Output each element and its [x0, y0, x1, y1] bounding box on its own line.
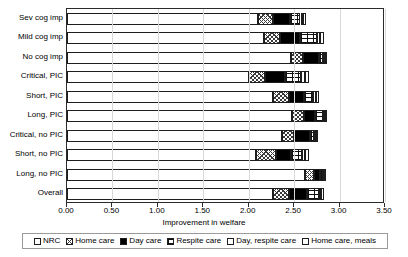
x-axis-tick-mark: [384, 203, 385, 207]
legend-swatch-respite-care: [167, 238, 174, 245]
plot-area: [66, 8, 384, 203]
legend-swatch-day-respite-care: [227, 238, 234, 245]
bar-row: [67, 169, 385, 181]
bar-segment-home-care-meals: [320, 32, 324, 44]
bar-segment-home-care: [258, 13, 273, 25]
bar-segment-nrc: [67, 130, 282, 142]
gridline: [294, 9, 295, 202]
bar-row: [67, 110, 385, 122]
legend-item-respite-care: Respite care: [167, 236, 221, 246]
bar-segment-respite-care: [315, 110, 323, 122]
x-axis-tick-mark: [339, 203, 340, 207]
bar-segment-home-care-meals: [316, 130, 318, 142]
gridline: [203, 9, 204, 202]
legend-item-nrc: NRC: [34, 236, 60, 246]
legend-swatch-nrc: [34, 238, 41, 245]
bar-segment-day-care: [276, 149, 291, 161]
legend-item-day-care: Day care: [120, 236, 161, 246]
bar-segment-day-care: [273, 13, 289, 25]
gridline: [340, 9, 341, 202]
bar-segment-home-care: [264, 32, 279, 44]
bar-row: [67, 130, 385, 142]
x-axis-tick-mark: [293, 203, 294, 207]
chart-figure: Sev cog impMild cog impNo cog impCritica…: [0, 0, 408, 257]
bar-segment-nrc: [67, 169, 305, 181]
bar-segment-day-care: [304, 110, 315, 122]
bar-row: [67, 32, 385, 44]
x-axis-tick-mark: [66, 203, 67, 207]
bar-segment-nrc: [67, 188, 273, 200]
bar-segment-day-care: [280, 32, 300, 44]
y-axis-label: No cog imp: [23, 51, 63, 63]
bar-segment-day-care: [303, 52, 318, 64]
y-axis-label: Critical, no PIC: [10, 129, 63, 141]
bar-segment-home-care-meals: [325, 52, 327, 64]
gridline: [158, 9, 159, 202]
y-axis-label: Critical, PIC: [21, 70, 63, 82]
bar-segment-home-care-meals: [316, 91, 319, 103]
bar-segment-nrc: [67, 149, 256, 161]
bar-row: [67, 188, 385, 200]
bar-segment-home-care-meals: [305, 71, 309, 83]
bar-segment-nrc: [67, 32, 264, 44]
y-axis-label: Long, no PIC: [16, 168, 63, 180]
legend-item-home-care-meals: Home care, meals: [302, 236, 376, 246]
bars-container: [67, 9, 383, 202]
bar-segment-day-care: [289, 91, 304, 103]
y-axis-label: Short, no PIC: [15, 148, 63, 160]
x-axis-tick-mark: [111, 203, 112, 207]
legend-swatch-day-care: [120, 238, 127, 245]
bar-segment-home-care-meals: [303, 13, 306, 25]
chart-legend: NRCHome careDay careRespite careDay, res…: [22, 233, 388, 249]
x-axis-tick-mark: [202, 203, 203, 207]
bar-segment-home-care: [305, 169, 314, 181]
legend-label: NRC: [43, 236, 60, 246]
y-axis-label: Long, PIC: [27, 109, 63, 121]
bar-segment-home-care: [273, 91, 288, 103]
y-axis-label: Sev cog imp: [19, 12, 63, 24]
legend-label: Day, respite care: [236, 236, 296, 246]
bar-segment-day-care: [265, 71, 285, 83]
legend-label: Home care: [75, 236, 114, 246]
legend-label: Respite care: [176, 236, 221, 246]
x-axis-tick-labels: 0.000.501.001.502.002.503.003.50: [0, 205, 408, 217]
bar-segment-nrc: [67, 91, 273, 103]
legend-swatch-home-care-meals: [302, 238, 309, 245]
bar-segment-home-care: [282, 130, 294, 142]
gridline: [112, 9, 113, 202]
bar-segment-day-care: [289, 188, 307, 200]
bar-segment-respite-care: [291, 149, 302, 161]
bar-segment-home-care-meals: [324, 169, 326, 181]
bar-segment-nrc: [67, 110, 292, 122]
bar-segment-respite-care: [307, 188, 319, 200]
legend-item-day-respite-care: Day, respite care: [227, 236, 296, 246]
bar-segment-home-care-meals: [321, 188, 324, 200]
bar-segment-respite-care: [304, 91, 313, 103]
x-axis-title: Improvement in welfare: [0, 218, 408, 227]
legend-label: Day care: [129, 236, 161, 246]
bar-segment-home-care: [249, 71, 265, 83]
bar-row: [67, 52, 385, 64]
legend-label: Home care, meals: [311, 236, 376, 246]
gridline: [385, 9, 386, 202]
bar-segment-home-care: [273, 188, 288, 200]
bar-segment-nrc: [67, 52, 291, 64]
bar-row: [67, 149, 385, 161]
x-axis-tick-mark: [157, 203, 158, 207]
y-axis-category-labels: Sev cog impMild cog impNo cog impCritica…: [0, 8, 63, 203]
bar-segment-respite-care: [300, 32, 317, 44]
bar-segment-nrc: [67, 13, 258, 25]
bar-segment-home-care-meals: [305, 149, 309, 161]
bar-row: [67, 91, 385, 103]
y-axis-label: Mild cog imp: [18, 31, 63, 43]
legend-item-home-care: Home care: [66, 236, 114, 246]
gridline: [249, 9, 250, 202]
x-axis-tick-mark: [248, 203, 249, 207]
y-axis-label: Short, PIC: [26, 90, 63, 102]
bar-row: [67, 71, 385, 83]
bar-segment-home-care-meals: [325, 110, 327, 122]
y-axis-label: Overall: [38, 187, 63, 199]
bar-row: [67, 13, 385, 25]
bar-segment-day-care: [294, 130, 309, 142]
legend-swatch-home-care: [66, 238, 73, 245]
